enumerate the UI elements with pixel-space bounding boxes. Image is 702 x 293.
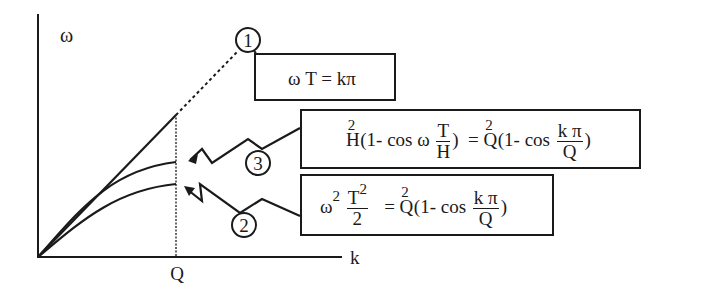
curve-2 [38, 184, 176, 257]
equation-box-2: ω2 T22 = Q2(1- cos k πQ) [300, 174, 554, 236]
equation-box-1: ω T = kπ [254, 53, 396, 101]
curve-1-solid [38, 115, 176, 257]
y-axis-label: ω [60, 24, 73, 46]
q-marker-label: Q [170, 263, 184, 284]
curve-1-dotted [176, 51, 238, 115]
callout-3-arrow [190, 128, 300, 163]
callout-2-arrow [188, 184, 300, 216]
callout-1-badge: 1 [236, 28, 260, 52]
equation-3: H2(1- cos ω TH) = Q2(1- cos k πQ) [346, 121, 591, 162]
dispersion-diagram: ω k Q 1 3 2 [0, 0, 702, 293]
equation-2: ω2 T22 = Q2(1- cos k πQ) [320, 188, 507, 229]
svg-text:1: 1 [243, 30, 253, 51]
x-axis-label: k [350, 247, 360, 268]
callout-3-badge: 3 [246, 151, 270, 175]
svg-text:3: 3 [253, 153, 263, 174]
callout-2-badge: 2 [232, 213, 256, 237]
equation-box-3: H2(1- cos ω TH) = Q2(1- cos k πQ) [300, 109, 641, 169]
svg-text:2: 2 [239, 215, 249, 236]
equation-1: ω T = kπ [288, 69, 356, 88]
curve-3 [38, 162, 176, 257]
